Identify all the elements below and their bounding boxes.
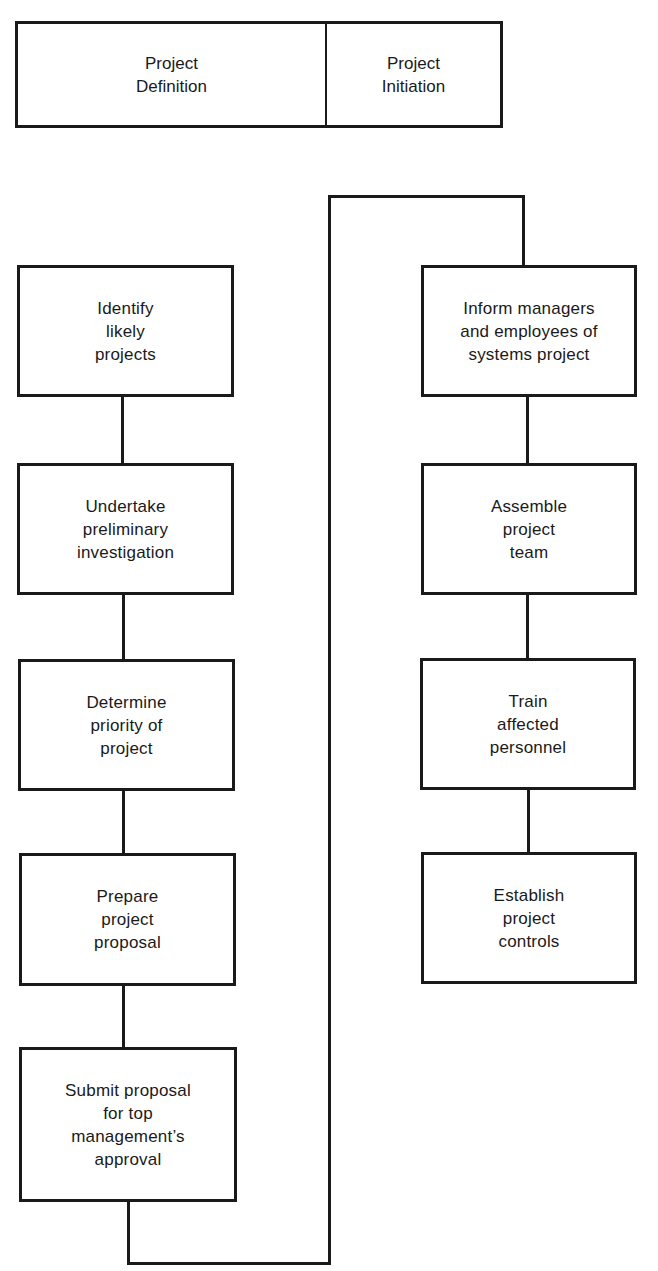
transition-connector-bottom [127, 1262, 331, 1265]
transition-connector-top [328, 195, 525, 198]
step-label: Determine priority of project [86, 691, 166, 760]
connector-line [122, 790, 125, 854]
step-prepare-project-proposal: Prepare project proposal [19, 853, 236, 986]
connector-line [526, 396, 529, 464]
step-label: Undertake preliminary investigation [77, 495, 174, 564]
connector-line [526, 594, 529, 659]
step-label: Identify likely projects [95, 297, 156, 366]
phase-header-initiation: Project Initiation [327, 24, 500, 125]
step-train-affected-personnel: Train affected personnel [420, 658, 636, 790]
phase-header-definition: Project Definition [18, 24, 327, 125]
step-submit-proposal: Submit proposal for top management’s app… [19, 1047, 237, 1202]
step-label: Inform managers and employees of systems… [460, 297, 597, 366]
step-establish-project-controls: Establish project controls [421, 852, 637, 984]
step-inform-managers-employees: Inform managers and employees of systems… [421, 265, 637, 397]
connector-line [122, 985, 125, 1049]
step-label: Assemble project team [491, 495, 567, 564]
step-determine-priority: Determine priority of project [18, 659, 235, 791]
transition-connector-up [328, 195, 331, 1265]
step-label: Train affected personnel [490, 690, 566, 759]
step-label: Submit proposal for top management’s app… [65, 1079, 191, 1171]
connector-line [122, 594, 125, 660]
transition-connector-into-initiation [522, 195, 525, 266]
phase-header: Project Definition Project Initiation [15, 21, 503, 128]
transition-connector-down [127, 1201, 130, 1265]
step-identify-likely-projects: Identify likely projects [17, 265, 234, 397]
step-label: Prepare project proposal [94, 885, 161, 954]
step-assemble-project-team: Assemble project team [421, 463, 637, 595]
connector-line [121, 396, 124, 465]
connector-line [527, 789, 530, 853]
step-label: Establish project controls [494, 884, 565, 953]
step-undertake-preliminary-investigation: Undertake preliminary investigation [17, 463, 234, 595]
